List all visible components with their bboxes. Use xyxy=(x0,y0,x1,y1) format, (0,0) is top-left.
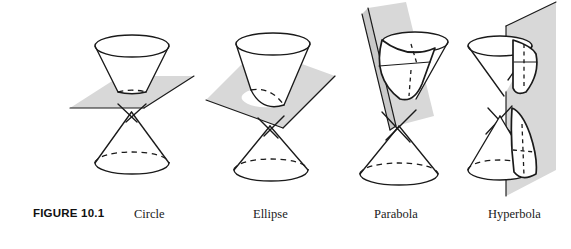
lower-nappe-base-front-parabola xyxy=(360,174,438,185)
lower-nappe-left-side-ellipse xyxy=(234,126,270,170)
lower-nappe-base-hidden-parabola xyxy=(360,163,438,174)
lower-nappe-right-side-parabola xyxy=(399,126,438,174)
figure-conic-sections: FIGURE 10.1 Circle Ellipse Parabola Hype… xyxy=(0,0,571,249)
figure-number: FIGURE 10.1 xyxy=(33,207,104,219)
caption-label-hyperbola: Hyperbola xyxy=(488,207,541,222)
lower-nappe-right-side-circle xyxy=(132,112,170,163)
diagram-ellipse xyxy=(202,0,342,200)
lower-nappe-base-hidden-ellipse xyxy=(234,159,308,170)
caption-label-parabola: Parabola xyxy=(374,207,418,222)
caption-label-circle: Circle xyxy=(134,207,165,222)
lower-nappe-base-hidden-circle xyxy=(95,152,169,163)
lower-nappe-base-front-circle xyxy=(95,163,169,174)
lower-nappe-base-front-ellipse xyxy=(234,170,308,181)
diagram-circle xyxy=(62,0,202,200)
caption-label-ellipse: Ellipse xyxy=(253,207,288,222)
lower-nappe-left-side-circle xyxy=(95,112,132,163)
diagram-parabola xyxy=(338,0,460,200)
lower-nappe-right-side-ellipse xyxy=(270,126,308,170)
diagram-hyperbola xyxy=(452,0,571,200)
figure-caption-row: FIGURE 10.1 Circle Ellipse Parabola Hype… xyxy=(0,207,571,233)
lower-nappe-left-side-parabola xyxy=(360,126,399,174)
